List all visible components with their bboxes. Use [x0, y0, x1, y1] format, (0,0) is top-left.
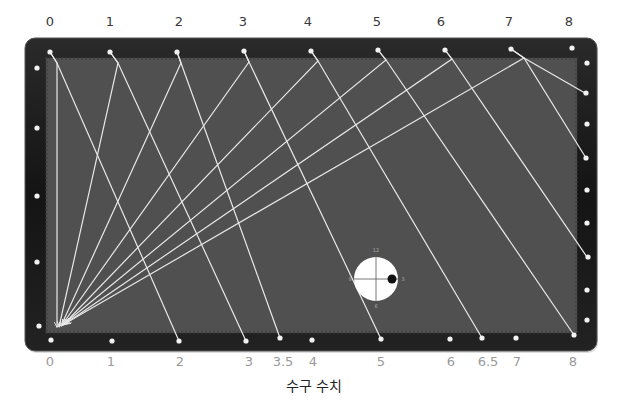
bottom-rail-number-label: 6.5: [478, 354, 499, 369]
top-rail-number-label: 6: [437, 14, 445, 29]
bottom-rail-number-label: 3.5: [273, 354, 294, 369]
top-rail-number-label: 4: [304, 14, 312, 29]
diamond-bottom: [479, 335, 484, 340]
bottom-rail-number-label: 4: [309, 354, 317, 369]
diamond-bottom: [277, 335, 282, 340]
diamond-bottom: [513, 335, 518, 340]
diamond-right: [584, 187, 589, 192]
bottom-rail-number-label: 1: [107, 354, 115, 369]
top-rail-number-label: 3: [239, 14, 247, 29]
diamond-right: [583, 155, 588, 160]
top-rail-number-label: 8: [565, 14, 573, 29]
diamond-right: [584, 287, 589, 292]
clock-label: 9: [348, 276, 351, 282]
diamond-bottom: [243, 338, 248, 343]
top-rail-number-label: 5: [373, 14, 381, 29]
cue-tip-point-icon: [388, 275, 397, 284]
top-rail-number-label: 0: [46, 14, 54, 29]
top-rail-number-label: 1: [106, 14, 114, 29]
diamond-top: [375, 47, 380, 52]
diamond-bottom: [571, 332, 576, 337]
diamond-bottom: [176, 338, 181, 343]
diamond-bottom: [309, 337, 314, 342]
bottom-rail-number-label: 5: [377, 354, 385, 369]
diamond-top: [508, 46, 513, 51]
diamond-bottom: [48, 337, 53, 342]
diamond-left: [34, 259, 39, 264]
diamond-right: [585, 254, 590, 259]
bottom-rail-number-label: 7: [513, 354, 521, 369]
bottom-rail-number-label: 0: [46, 354, 54, 369]
billiard-system-diagram: 12369 012345678 01233.54566.578 수구 수치: [0, 0, 627, 411]
bottom-rail-number-label: 2: [176, 354, 184, 369]
diamond-left: [34, 65, 39, 70]
diamond-top: [569, 45, 574, 50]
diamond-top: [174, 49, 179, 54]
clock-label: 3: [401, 276, 404, 282]
top-rail-number-label: 7: [505, 14, 513, 29]
diamond-right: [584, 121, 589, 126]
clock-label: 12: [373, 247, 379, 253]
table-svg: 12369: [0, 0, 627, 411]
bottom-rail-number-label: 8: [569, 354, 577, 369]
diamond-bottom: [109, 338, 114, 343]
diamond-left: [34, 193, 39, 198]
clock-label: 6: [374, 303, 377, 309]
diamond-right: [583, 90, 588, 95]
diamond-bottom: [447, 336, 452, 341]
diamond-right: [584, 317, 589, 322]
diamond-top: [107, 49, 112, 54]
bottom-rail-number-label: 6: [447, 354, 455, 369]
diamond-top: [308, 48, 313, 53]
diamond-right: [584, 220, 589, 225]
diamond-top: [241, 48, 246, 53]
diamond-bottom: [378, 336, 383, 341]
diamond-top: [47, 49, 52, 54]
diamond-right: [584, 60, 589, 65]
bottom-rail-number-label: 3: [245, 354, 253, 369]
diamond-left: [34, 125, 39, 130]
table-felt: [46, 58, 577, 333]
top-rail-number-label: 2: [175, 14, 183, 29]
diagram-caption: 수구 수치: [286, 375, 342, 395]
diamond-top: [442, 47, 447, 52]
diamond-left: [36, 323, 41, 328]
